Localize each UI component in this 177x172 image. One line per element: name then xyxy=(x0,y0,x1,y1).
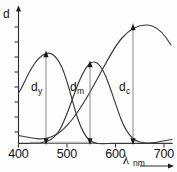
x-tick-label-500: 500 xyxy=(57,147,78,161)
x-axis-ticks xyxy=(19,144,165,148)
annotation-dy-subscript: y xyxy=(38,86,43,96)
annotation-dc-subscript: c xyxy=(126,86,131,96)
peak-arrow-dm xyxy=(87,61,92,146)
x-axis-unit-nm: nm xyxy=(133,158,145,168)
curve-dy xyxy=(19,53,173,144)
peak-arrow-dc xyxy=(130,24,135,146)
y-axis-arrow-icon xyxy=(16,6,21,12)
curve-dc xyxy=(19,25,172,139)
annotation-dy: d xyxy=(31,80,38,94)
y-axis-title-d: d xyxy=(3,7,10,21)
annotation-dc: d xyxy=(119,80,126,94)
x-tick-label-700: 700 xyxy=(154,147,175,161)
x-tick-label-400: 400 xyxy=(8,147,29,161)
curve-dm xyxy=(19,62,173,143)
x-axis-title-lambda: λ xyxy=(123,152,130,167)
peak-arrow-dy xyxy=(43,51,48,146)
annotation-dm-subscript: m xyxy=(77,86,84,96)
dye-density-spectral-chart: 400 500 600 700 λ nm d d y d m d c xyxy=(0,0,177,172)
chart-canvas: 400 500 600 700 λ nm d d y d m d c xyxy=(0,0,177,172)
annotation-dm: d xyxy=(70,80,77,94)
y-axis-ticks xyxy=(15,27,19,132)
x-axis-direction-arrow-icon xyxy=(140,164,174,169)
